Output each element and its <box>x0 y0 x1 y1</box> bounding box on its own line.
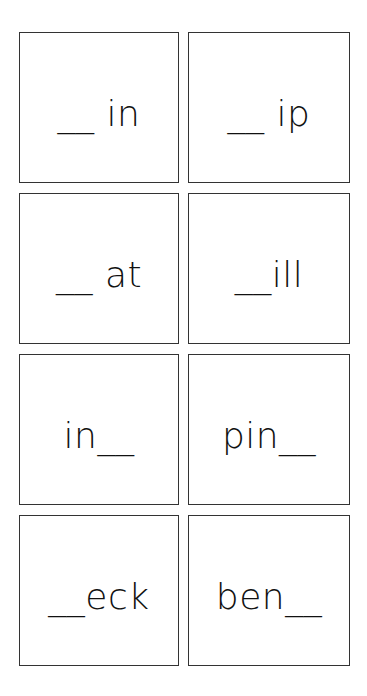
word-card-text: __ at <box>56 257 142 293</box>
word-card: __eck <box>19 515 179 666</box>
word-card: __ ip <box>188 32 350 183</box>
word-card: in__ <box>19 354 179 505</box>
word-card-text: __ill <box>235 257 304 293</box>
word-card: __ in <box>19 32 179 183</box>
word-card: __ill <box>188 193 350 344</box>
word-card-text: __ in <box>58 96 141 132</box>
word-card: __ at <box>19 193 179 344</box>
word-card: ben__ <box>188 515 350 666</box>
word-card-text: __eck <box>48 579 149 615</box>
word-card-text: in__ <box>64 418 135 454</box>
word-card-text: pin__ <box>222 418 316 454</box>
word-card: pin__ <box>188 354 350 505</box>
word-card-text: ben__ <box>216 579 322 615</box>
word-card-text: __ ip <box>228 96 311 132</box>
